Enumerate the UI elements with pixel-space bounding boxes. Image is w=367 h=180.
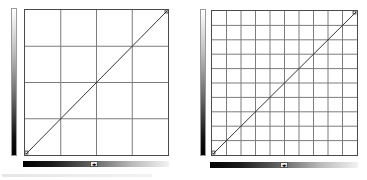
curves-panel-left: ◂▸ <box>0 0 183 180</box>
left-right-arrows-icon[interactable]: ◂▸ <box>90 161 98 167</box>
output-gradient-bar <box>11 8 17 156</box>
left-right-arrows-icon[interactable]: ◂▸ <box>280 162 288 168</box>
curves-graph[interactable] <box>211 10 358 156</box>
caption-text <box>2 174 152 177</box>
output-gradient-bar <box>200 9 206 156</box>
curves-grid-svg <box>25 10 168 155</box>
curves-panel-right: ◂▸ <box>183 0 367 180</box>
curves-graph[interactable] <box>24 9 169 156</box>
curves-grid-svg <box>212 11 357 155</box>
